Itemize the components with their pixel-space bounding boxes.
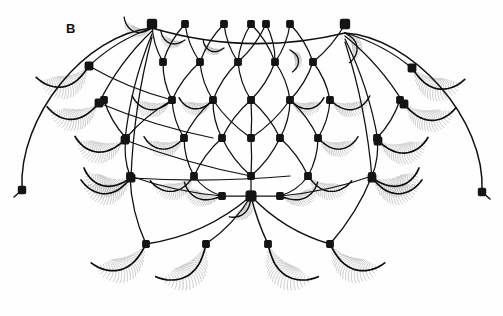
lattice-node bbox=[142, 240, 150, 248]
lattice-node bbox=[209, 96, 217, 104]
lattice-node bbox=[309, 58, 317, 66]
lattice-node bbox=[180, 134, 188, 142]
net-strand bbox=[251, 100, 252, 138]
lattice-node bbox=[314, 134, 322, 142]
lattice-node bbox=[220, 20, 228, 28]
seta-network-drawing bbox=[0, 0, 503, 316]
lattice-node bbox=[247, 96, 255, 104]
lattice-node bbox=[276, 192, 284, 200]
lattice-node bbox=[276, 134, 284, 142]
lattice-node bbox=[247, 20, 255, 28]
lattice-node bbox=[264, 240, 272, 248]
lattice-node bbox=[286, 96, 294, 104]
lattice-node bbox=[168, 96, 176, 104]
lattice-node bbox=[147, 19, 157, 29]
net-strand bbox=[251, 138, 252, 176]
margin-rib-node bbox=[374, 137, 383, 146]
lattice-node bbox=[196, 58, 204, 66]
lattice-node bbox=[262, 20, 270, 28]
lattice-node bbox=[218, 192, 226, 200]
margin-rib-node bbox=[127, 174, 136, 183]
lattice-node bbox=[340, 19, 350, 29]
lattice-node bbox=[181, 20, 189, 28]
lattice-node bbox=[271, 58, 279, 66]
margin-rib-node bbox=[400, 100, 409, 109]
lattice-node bbox=[218, 134, 226, 142]
lattice-node bbox=[234, 58, 242, 66]
lattice-node bbox=[202, 240, 210, 248]
lattice-node bbox=[326, 240, 334, 248]
margin-rib-node bbox=[408, 64, 417, 73]
lattice-node bbox=[304, 172, 312, 180]
margin-rib-node bbox=[368, 174, 377, 183]
right-margin-tip-node bbox=[478, 188, 486, 196]
lattice-node bbox=[326, 96, 334, 104]
lattice-node bbox=[247, 134, 255, 142]
margin-rib-node bbox=[85, 62, 94, 71]
lattice-node bbox=[286, 20, 294, 28]
lattice-node bbox=[247, 172, 255, 180]
left-margin-tip-node bbox=[18, 186, 26, 194]
panel-label-b: B bbox=[66, 22, 75, 35]
margin-rib-node bbox=[95, 99, 104, 108]
central-hub-node bbox=[246, 191, 257, 202]
margin-rib-node bbox=[121, 136, 130, 145]
lattice-node bbox=[159, 58, 167, 66]
figure-panel-b: B bbox=[0, 0, 503, 316]
lattice-node bbox=[190, 172, 198, 180]
